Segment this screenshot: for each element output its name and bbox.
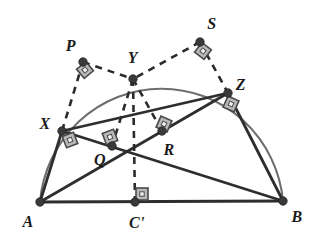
right-angle-at-X-inner bbox=[67, 137, 73, 143]
vertex-dot-S bbox=[196, 38, 204, 46]
vertex-dot-X bbox=[58, 127, 66, 135]
segment-XZ bbox=[62, 93, 228, 131]
vertex-label-P: P bbox=[66, 38, 76, 54]
right-angle-at-R-inner bbox=[161, 121, 167, 127]
vertex-dot-Q bbox=[108, 142, 116, 150]
semicircle-arc bbox=[40, 89, 283, 202]
vertex-dot-A bbox=[36, 198, 44, 206]
vertex-dot-Y bbox=[129, 75, 137, 83]
vertex-label-B: B bbox=[291, 209, 302, 225]
vertex-label-Cp: C' bbox=[129, 215, 145, 231]
vertex-dot-P bbox=[79, 58, 87, 66]
right-angle-at-Q-inner bbox=[107, 134, 113, 140]
segment-SY bbox=[133, 42, 200, 79]
vertex-label-Z: Z bbox=[236, 77, 246, 93]
vertex-label-X: X bbox=[39, 116, 50, 132]
vertex-label-S: S bbox=[207, 16, 216, 32]
right-angle-at-Cp bbox=[136, 188, 148, 200]
vertex-dot-B bbox=[279, 197, 287, 205]
vertex-label-Y: Y bbox=[128, 50, 138, 66]
geometry-figure: ABC'XYZQRPS bbox=[0, 0, 319, 244]
vertex-label-A: A bbox=[22, 214, 33, 230]
vertex-dot-Z bbox=[224, 89, 232, 97]
segment-AB bbox=[40, 201, 283, 202]
vertex-dot-Cp bbox=[131, 198, 139, 206]
right-angle-at-Z-inner bbox=[228, 101, 234, 107]
vertex-label-R: R bbox=[163, 142, 174, 158]
vertex-label-Q: Q bbox=[94, 152, 106, 168]
right-angle-at-Cp-inner bbox=[140, 192, 144, 196]
segment-YCp bbox=[133, 79, 135, 202]
vertex-dot-R bbox=[158, 127, 166, 135]
